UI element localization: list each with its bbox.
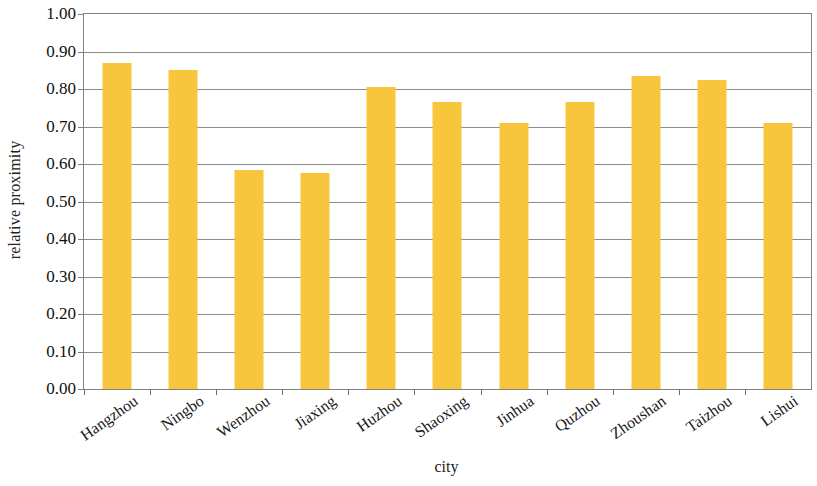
bar[interactable] <box>433 102 462 389</box>
x-axis-tick-label: Quzhou <box>552 392 604 436</box>
bar-slot <box>679 14 745 389</box>
bar-slot <box>613 14 679 389</box>
bar[interactable] <box>697 80 726 389</box>
bars-layer <box>84 14 811 389</box>
y-axis-tick-label: 0.00 <box>28 380 76 397</box>
plot-area <box>83 13 812 390</box>
bar[interactable] <box>169 70 198 389</box>
x-axis-tick-label: Jiaxing <box>291 392 339 433</box>
bar[interactable] <box>499 123 528 389</box>
x-axis-tick-label: Hangzhou <box>77 392 141 444</box>
bar-slot <box>414 14 480 389</box>
x-axis-tick-label: Huzhou <box>353 392 405 436</box>
bar-slot <box>547 14 613 389</box>
y-axis-tick-label: 0.50 <box>28 192 76 209</box>
y-axis-tick-label: 0.70 <box>28 117 76 134</box>
bar-slot <box>216 14 282 389</box>
x-axis-tick-label: Zhoushan <box>608 392 670 443</box>
y-axis-tick-label: 0.60 <box>28 155 76 172</box>
x-axis-tick-label: Shaoxing <box>412 392 472 441</box>
y-axis-tick-label: 1.00 <box>28 5 76 22</box>
y-axis-tick-label: 0.30 <box>28 267 76 284</box>
x-axis-tick-label: Jinhua <box>493 392 538 431</box>
bar[interactable] <box>301 173 330 389</box>
bar-slot <box>282 14 348 389</box>
bar-chart: relative proximity 0.000.100.200.300.400… <box>0 0 817 486</box>
bar[interactable] <box>565 102 594 389</box>
y-axis-tick-label: 0.10 <box>28 342 76 359</box>
y-axis-tick-label: 0.20 <box>28 305 76 322</box>
bar[interactable] <box>103 63 132 389</box>
y-axis-title-text: relative proximity <box>6 141 24 260</box>
bar-slot <box>150 14 216 389</box>
x-axis-tick-label: Wenzhou <box>214 392 273 441</box>
y-axis-tick-label: 0.90 <box>28 42 76 59</box>
y-axis-tick-label: 0.80 <box>28 80 76 97</box>
bar-slot <box>348 14 414 389</box>
bar-slot <box>745 14 811 389</box>
x-axis-tick-label: Lishui <box>758 392 802 430</box>
x-axis-tick-label: Ningbo <box>157 392 207 434</box>
bar[interactable] <box>631 76 660 389</box>
y-axis-tick-labels: 0.000.100.200.300.400.500.600.700.800.90… <box>30 13 80 388</box>
bar[interactable] <box>763 123 792 389</box>
x-axis-tick-label: Taizhou <box>683 392 735 436</box>
bar-slot <box>84 14 150 389</box>
bar[interactable] <box>367 87 396 389</box>
bar-slot <box>481 14 547 389</box>
x-axis-title: city <box>83 458 810 476</box>
bar[interactable] <box>235 170 264 389</box>
y-axis-title: relative proximity <box>0 0 30 400</box>
x-axis-tick-labels: HangzhouNingboWenzhouJiaxingHuzhouShaoxi… <box>83 390 810 452</box>
y-axis-tick-label: 0.40 <box>28 230 76 247</box>
